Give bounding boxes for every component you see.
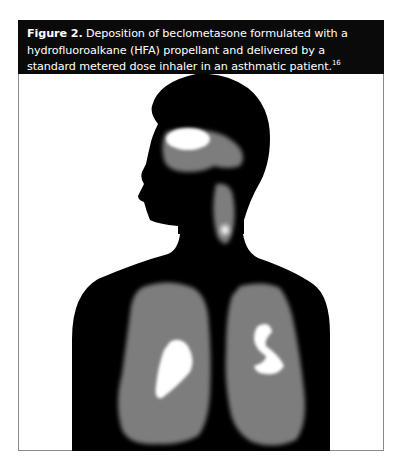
figure-label: Figure 2. [27,27,83,40]
scintigraphy-image [18,74,384,451]
figure-caption: Figure 2. Deposition of beclometasone fo… [18,20,384,74]
reference-superscript: 16 [332,59,341,67]
left-lung-deposition [118,283,211,445]
